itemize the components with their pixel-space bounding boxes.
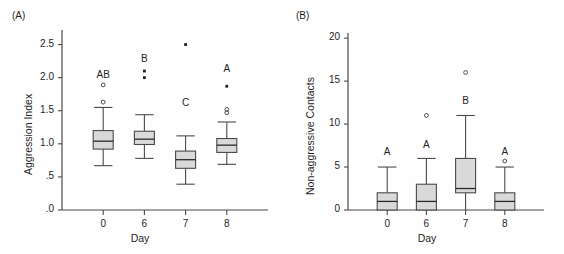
y-axis-tick-label: .0 — [14, 203, 54, 214]
group-significance-letter: A — [367, 146, 407, 157]
y-axis-tick-label: 2.5 — [14, 38, 54, 49]
figure-container: (A) Aggression Index Day .0.51.01.52.02.… — [0, 0, 564, 254]
outlier-marker — [101, 83, 105, 87]
box — [134, 131, 154, 144]
group-significance-letter: A — [207, 63, 247, 74]
outlier-extreme-marker — [184, 43, 187, 46]
group-significance-letter: A — [485, 146, 525, 157]
group-significance-letter: C — [166, 97, 206, 108]
x-axis-tick-label: 6 — [124, 218, 164, 229]
outlier-extreme-marker — [225, 85, 228, 88]
y-axis-tick-label: 2.0 — [14, 71, 54, 82]
y-axis-tick-label: 1.0 — [14, 137, 54, 148]
group-significance-letter: A — [406, 139, 446, 150]
x-axis-tick-label: 6 — [406, 218, 446, 229]
box — [93, 131, 113, 150]
x-axis-tick-label: 0 — [367, 218, 407, 229]
y-axis-tick-label: 20 — [300, 31, 340, 42]
outlier-marker — [101, 100, 105, 104]
group-significance-letter: AB — [83, 69, 123, 80]
y-axis-tick-label: 5 — [300, 160, 340, 171]
outlier-marker — [503, 159, 507, 163]
y-axis-tick-label: 10 — [300, 117, 340, 128]
group-significance-letter: B — [446, 95, 486, 106]
outlier-extreme-marker — [143, 76, 146, 79]
box — [416, 184, 436, 210]
outlier-marker — [464, 71, 468, 75]
x-axis-tick-label: 8 — [207, 218, 247, 229]
panel-a: (A) Aggression Index Day .0.51.01.52.02.… — [0, 0, 282, 254]
panel-b: (B) Non-aggressive Contacts Day 05101520… — [282, 0, 564, 254]
x-axis-tick-label: 0 — [83, 218, 123, 229]
outlier-marker — [425, 114, 429, 118]
y-axis-tick-label: .5 — [14, 170, 54, 181]
y-axis-tick-label: 0 — [300, 203, 340, 214]
x-axis-tick-label: 8 — [485, 218, 525, 229]
outlier-extreme-marker — [143, 70, 146, 73]
x-axis-tick-label: 7 — [446, 218, 486, 229]
y-axis-tick-label: 15 — [300, 74, 340, 85]
box — [456, 158, 476, 192]
group-significance-letter: B — [124, 53, 164, 64]
x-axis-tick-label: 7 — [166, 218, 206, 229]
y-axis-tick-label: 1.5 — [14, 104, 54, 115]
